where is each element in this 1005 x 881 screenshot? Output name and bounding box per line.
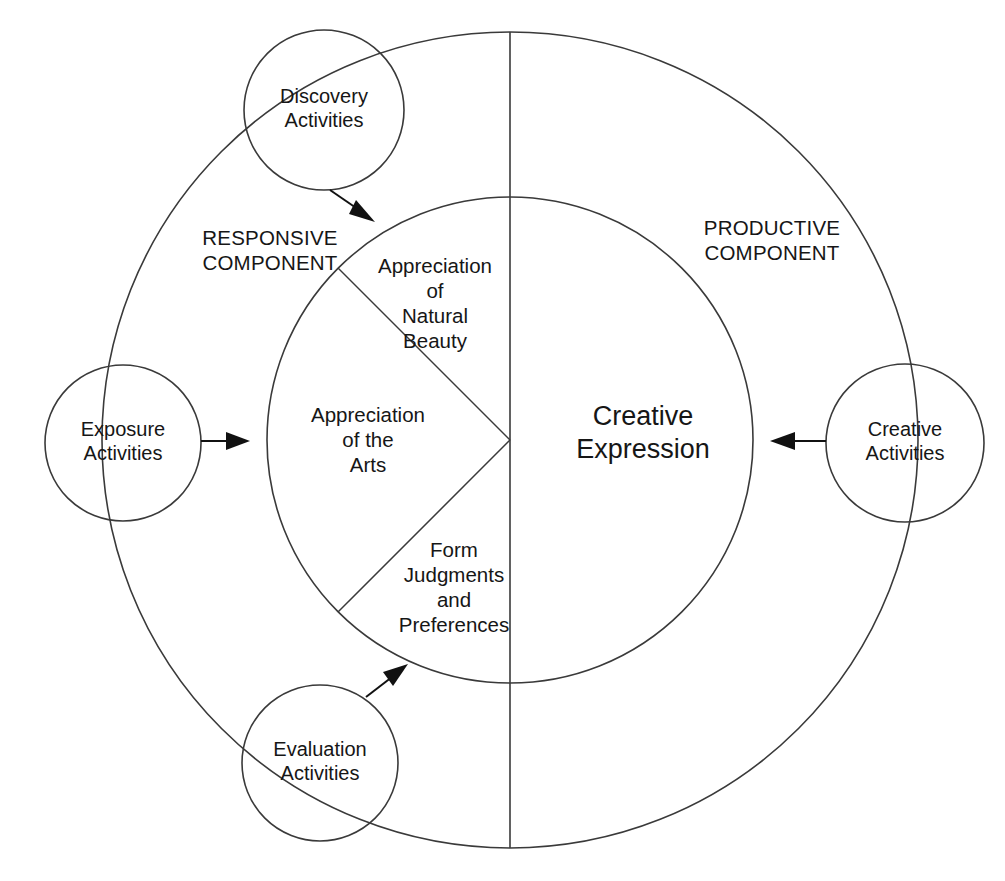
wedge-divider-lower — [338, 440, 510, 612]
exposure-activities-circle[interactable] — [45, 365, 201, 521]
arrow-creative-to-inner — [770, 432, 826, 450]
creative-activities-circle[interactable] — [826, 364, 984, 522]
wedge-divider-upper — [338, 268, 510, 440]
diagram-svg — [0, 0, 1005, 881]
evaluation-activities-circle[interactable] — [242, 685, 398, 841]
arrow-exposure-to-inner — [201, 432, 250, 450]
arrow-discovery-to-inner — [330, 190, 375, 222]
figure-canvas: Discovery Activities Exposure Activities… — [0, 0, 1005, 881]
arrow-evaluation-to-inner — [366, 664, 408, 697]
